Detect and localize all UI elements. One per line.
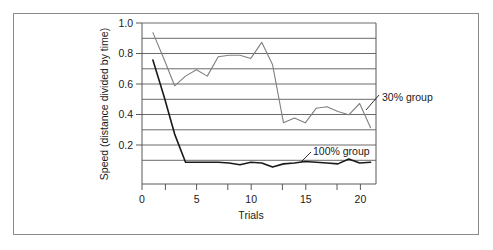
- x-tick-label-15: 15: [300, 193, 312, 205]
- leader-line-30-percent: [366, 95, 379, 110]
- y-tick-label-1.0: 1.0: [118, 17, 133, 29]
- series-label-30-percent: 30% group: [382, 91, 433, 103]
- x-tick-label-20: 20: [355, 193, 367, 205]
- y-tick-marks: [136, 23, 142, 145]
- x-tick-label-0: 0: [139, 193, 145, 205]
- y-axis-title: Speed (distance divided by time): [98, 28, 110, 180]
- series-line-30-percent: [153, 33, 371, 128]
- y-tick-label-0.6: 0.6: [118, 78, 133, 90]
- y-tick-label-0.4: 0.4: [118, 108, 133, 120]
- y-tick-label-0.2: 0.2: [118, 139, 133, 151]
- figure-canvas: 1.0 0.8 0.6 0.4 0.2 0 5 10 15 20 Speed (…: [0, 0, 493, 250]
- y-tick-label-0.8: 0.8: [118, 47, 133, 59]
- series-label-100-percent: 100% group: [313, 145, 370, 157]
- x-tick-marks: [142, 184, 360, 190]
- x-tick-label-5: 5: [194, 193, 200, 205]
- x-tick-label-10: 10: [245, 193, 257, 205]
- x-axis-title: Trials: [238, 209, 263, 221]
- x-tick-labels: 0 5 10 15 20: [139, 193, 366, 205]
- y-tick-labels: 1.0 0.8 0.6 0.4 0.2: [118, 17, 133, 151]
- line-chart: 1.0 0.8 0.6 0.4 0.2 0 5 10 15 20 Speed (…: [0, 0, 493, 250]
